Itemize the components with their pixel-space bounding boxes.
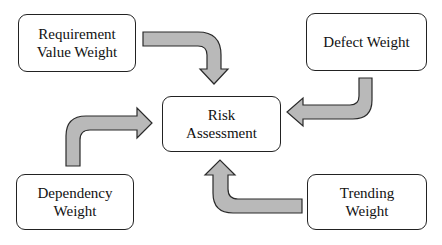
node-label-line: Risk xyxy=(208,106,236,124)
diagram-canvas: Requirement Value Weight Defect Weight R… xyxy=(0,0,442,245)
node-label-line: Dependency xyxy=(38,184,113,202)
arrow-defect-to-risk xyxy=(287,78,372,126)
node-label-line: Trending xyxy=(340,184,394,202)
node-label-line: Defect Weight xyxy=(323,33,409,51)
defect-weight-node: Defect Weight xyxy=(306,13,427,71)
arrow-requirement-to-risk xyxy=(143,32,228,84)
node-label-line: Value Weight xyxy=(37,43,118,61)
node-label-line: Weight xyxy=(346,202,389,220)
dependency-weight-node: Dependency Weight xyxy=(16,174,134,230)
requirement-value-weight-node: Requirement Value Weight xyxy=(18,14,136,72)
risk-assessment-node: Risk Assessment xyxy=(162,96,281,152)
node-label-line: Assessment xyxy=(186,124,257,142)
node-label-line: Weight xyxy=(54,202,97,220)
arrow-dependency-to-risk xyxy=(66,108,152,166)
node-label-line: Requirement xyxy=(38,25,115,43)
trending-weight-node: Trending Weight xyxy=(307,174,427,230)
arrow-trending-to-risk xyxy=(205,160,302,213)
